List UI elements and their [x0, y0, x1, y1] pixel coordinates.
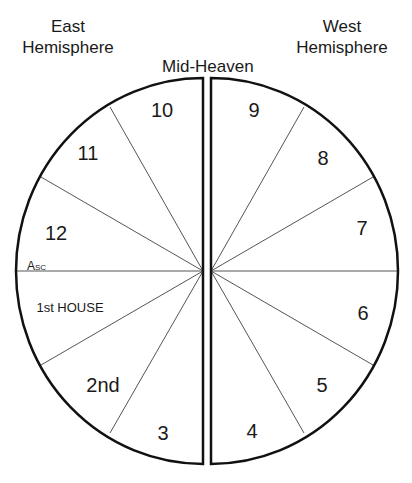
- east-hemisphere-label: East Hemisphere: [18, 16, 118, 58]
- house-11-label: 11: [78, 143, 99, 163]
- east-label-line2: Hemisphere: [18, 37, 118, 58]
- west-label-line2: Hemisphere: [292, 37, 392, 58]
- house-2-label: 2nd: [86, 375, 119, 395]
- house-3-label: 3: [157, 423, 168, 443]
- house-12-label: 12: [45, 223, 67, 243]
- west-label-line1: West: [292, 16, 392, 37]
- east-label-line1: East: [18, 16, 118, 37]
- ascendant-main: A: [27, 259, 35, 273]
- house-cusp-lines: [17, 107, 398, 433]
- house-6-label: 6: [357, 303, 368, 323]
- west-hemisphere-label: West Hemisphere: [292, 16, 392, 58]
- house-10-label: 10: [151, 100, 173, 120]
- house-5-label: 5: [316, 375, 327, 395]
- house-1-label: 1st HOUSE: [36, 301, 103, 314]
- house-7-label: 7: [356, 218, 367, 238]
- house-8-label: 8: [317, 148, 328, 168]
- ascendant-sub: SC: [35, 263, 46, 272]
- ascendant-label: ASC: [27, 260, 46, 272]
- house-4-label: 4: [246, 421, 257, 441]
- midheaven-label: Mid-Heaven: [162, 56, 254, 77]
- house-9-label: 9: [248, 100, 259, 120]
